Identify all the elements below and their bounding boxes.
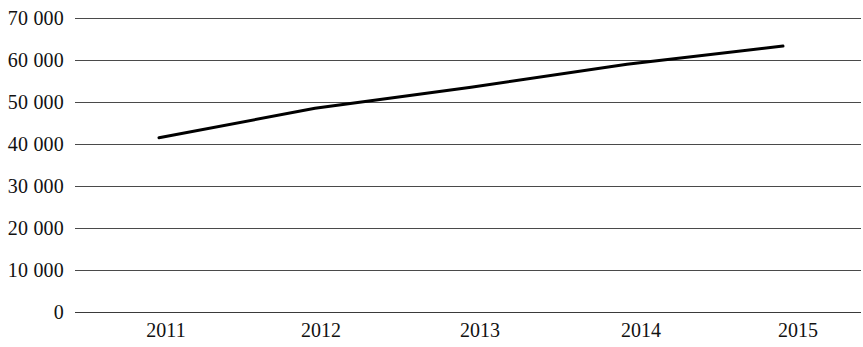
- gridline-20000: [75, 228, 861, 229]
- plot-area: [0, 0, 863, 347]
- x-axis-line: [75, 312, 861, 313]
- gridline-10000: [75, 270, 861, 271]
- gridline-30000: [75, 186, 861, 187]
- gridline-60000: [75, 60, 861, 61]
- gridline-70000: [75, 18, 861, 19]
- x-tick-label-2015: 2015: [778, 318, 818, 342]
- x-tick-label-2014: 2014: [621, 318, 661, 342]
- gridline-50000: [75, 102, 861, 103]
- gridline-40000: [75, 144, 861, 145]
- x-axis: 2011 2012 2013 2014 2015: [0, 318, 863, 347]
- x-tick-label-2011: 2011: [146, 318, 185, 342]
- x-tick-label-2012: 2012: [301, 318, 341, 342]
- line-chart: 70 000 60 000 50 000 40 000 30 000 20 00…: [0, 0, 863, 347]
- x-tick-label-2013: 2013: [460, 318, 500, 342]
